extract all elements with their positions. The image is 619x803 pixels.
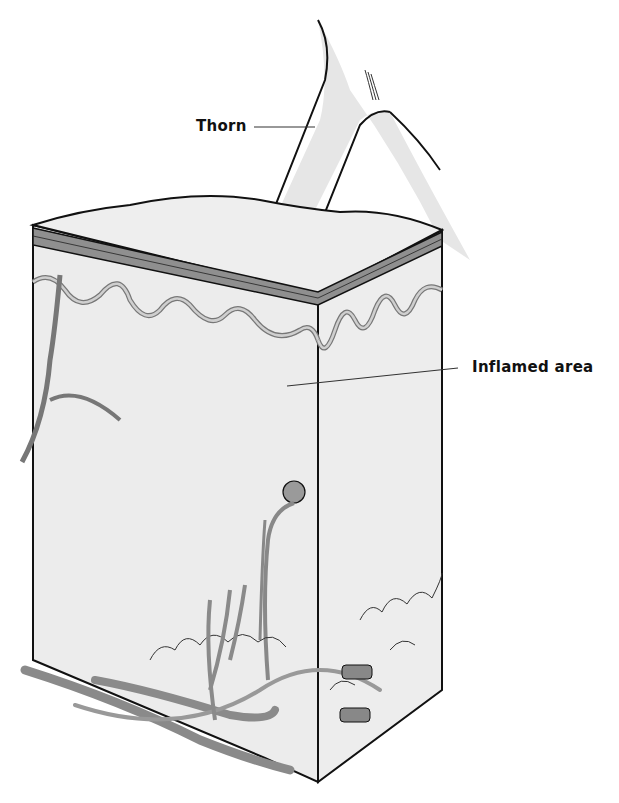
inflamed-area [105, 260, 295, 480]
label-thorn: Thorn [196, 117, 247, 135]
skin-inflammation-diagram [0, 0, 619, 803]
skin-block [22, 196, 442, 782]
label-inflamed-area: Inflamed area [472, 358, 594, 376]
gland [283, 481, 305, 503]
vessel-cross-section [340, 708, 370, 722]
vessel-cross-section [342, 665, 372, 679]
